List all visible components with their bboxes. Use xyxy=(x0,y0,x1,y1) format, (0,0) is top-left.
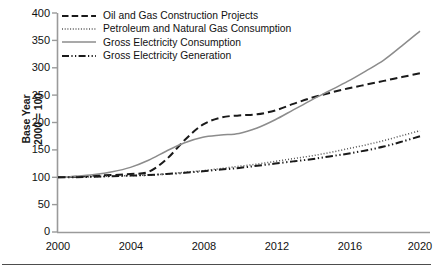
legend-item-petroleum-and-natural-gas-consumption: Petroleum and Natural Gas Consumption xyxy=(62,22,291,35)
legend-swatch-solid-icon xyxy=(62,36,96,48)
footer-divider xyxy=(2,264,431,265)
legend-swatch-dotted-icon xyxy=(62,23,96,35)
x-tick-label: 2004 xyxy=(111,240,151,252)
y-tick-label: 0 xyxy=(20,225,50,237)
x-tick-label: 2016 xyxy=(330,240,370,252)
legend-item-oil-and-gas-construction-projects: Oil and Gas Construction Projects xyxy=(62,9,291,22)
y-tick-label: 150 xyxy=(20,143,50,155)
series-line-oil-and-gas-construction-projects xyxy=(58,73,420,177)
legend-label: Gross Electricity Generation xyxy=(103,49,231,62)
legend-item-gross-electricity-generation: Gross Electricity Generation xyxy=(62,49,291,62)
y-tick-label: 100 xyxy=(20,171,50,183)
x-tick-label: 2000 xyxy=(38,240,78,252)
chart-legend: Oil and Gas Construction Projects Petrol… xyxy=(62,9,291,63)
legend-item-gross-electricity-consumption: Gross Electricity Consumption xyxy=(62,36,291,49)
legend-label: Oil and Gas Construction Projects xyxy=(103,9,258,22)
series-line-petroleum-and-natural-gas-consumption xyxy=(58,131,420,178)
legend-swatch-dashed-icon xyxy=(62,10,96,22)
legend-swatch-dashdot-icon xyxy=(62,50,96,62)
x-tick-label: 2008 xyxy=(184,240,224,252)
y-tick-label: 50 xyxy=(20,198,50,210)
legend-label: Gross Electricity Consumption xyxy=(103,36,241,49)
x-tick-label: 2020 xyxy=(400,240,433,252)
y-tick-label: 350 xyxy=(20,34,50,46)
chart-figure: Base Year 2000 = 100 400 350 300 250 200… xyxy=(0,0,433,271)
y-tick-label: 300 xyxy=(20,61,50,73)
legend-label: Petroleum and Natural Gas Consumption xyxy=(103,22,291,35)
y-axis-ticks xyxy=(52,13,57,232)
x-tick-label: 2012 xyxy=(257,240,297,252)
y-tick-label: 200 xyxy=(20,116,50,128)
y-tick-label: 250 xyxy=(20,89,50,101)
y-tick-label: 400 xyxy=(20,7,50,19)
